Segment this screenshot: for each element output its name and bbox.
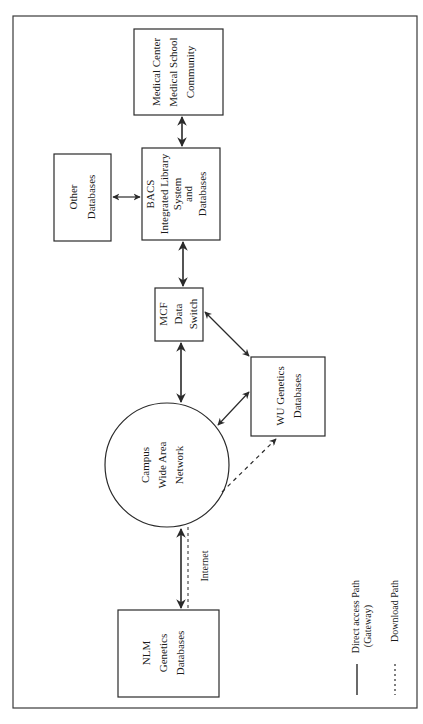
campus-wan-node: Campus Wide Area Network [105, 403, 229, 527]
wu-line-2: Databases [291, 374, 303, 419]
medical-center-line-3: Community [184, 45, 196, 98]
wan-line-3: Network [173, 445, 185, 484]
other-databases-node: Other Databases [54, 154, 111, 241]
mcf-line-1: MCF [157, 302, 169, 325]
legend-solid-line-2: (Gateway) [362, 605, 374, 647]
nlm-line-3: Databases [174, 631, 186, 676]
network-diagram: Medical Center Medical School Community … [0, 0, 423, 724]
legend: Direct access Path (Gateway) Download Pa… [350, 580, 400, 695]
mcf-data-switch-node: MCF Data Switch [155, 288, 203, 341]
edge-wan-wu [218, 392, 249, 425]
legend-solid-line-1: Direct access Path [350, 580, 361, 653]
bacs-line-2: Integrated Library [158, 153, 170, 234]
medical-center-node: Medical Center Medical School Community [134, 29, 223, 115]
mcf-line-3: Switch [187, 298, 199, 329]
mcf-line-2: Data [172, 304, 184, 325]
medical-center-line-1: Medical Center [150, 38, 162, 106]
wan-line-2: Wide Area [156, 441, 168, 488]
bacs-line-4: and [182, 186, 194, 202]
legend-dashed-line-1: Download Path [389, 580, 400, 642]
wan-line-1: Campus [139, 447, 151, 483]
nlm-node: NLM Genetics Databases [118, 610, 219, 697]
bacs-line-1: BACS [144, 180, 156, 209]
download-wan-wu [222, 439, 276, 492]
wu-genetics-node: WU Genetics Databases [251, 357, 325, 436]
bacs-node: BACS Integrated Library System and Datab… [142, 148, 220, 240]
nlm-line-1: NLM [140, 641, 152, 666]
bacs-line-5: Databases [196, 172, 208, 217]
edge-mcf-wu [205, 312, 249, 356]
other-db-line-2: Databases [85, 175, 97, 220]
internet-label: Internet [199, 550, 210, 581]
medical-center-line-2: Medical School [167, 37, 179, 106]
nlm-line-2: Genetics [157, 634, 169, 672]
other-db-line-1: Other [67, 184, 79, 209]
wu-line-1: WU Genetics [274, 366, 286, 426]
